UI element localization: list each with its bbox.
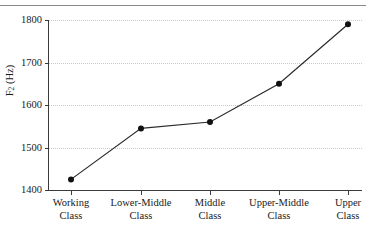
data-point-working-class [68, 176, 74, 182]
data-point-upper-middle-class [276, 81, 282, 87]
series-line-f2 [71, 24, 348, 179]
figure-container: F2 (Hz) 1800 1700 1600 1500 1400 Working… [0, 0, 366, 228]
series-svg [0, 0, 366, 228]
data-point-lower-middle-class [138, 125, 144, 131]
data-point-upper-class [345, 21, 351, 27]
series-markers [68, 21, 351, 182]
data-point-middle-class [207, 119, 213, 125]
